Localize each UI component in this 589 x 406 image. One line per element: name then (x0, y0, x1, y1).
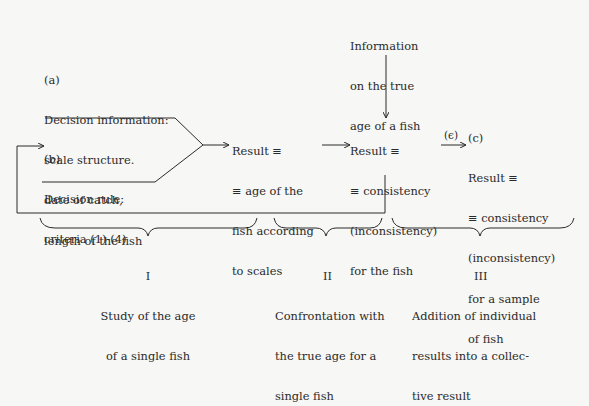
stage-numeral: II (275, 270, 395, 283)
stage-line: the true age for a (275, 350, 395, 363)
epsilon-label: (ϵ) (444, 129, 458, 142)
stage-line: of a single fish (88, 350, 208, 363)
stage-line: tive result (412, 390, 562, 403)
stage-I: I Study of the age of a single fish (88, 243, 208, 377)
stage-II: II Confrontation with the true age for a… (275, 243, 395, 406)
stage-III: III Addition of individual results into … (412, 243, 562, 406)
block-c-line: Result ≡ (468, 172, 555, 185)
stage-line: Confrontation with (275, 310, 395, 323)
result-consistency-line: ≡ consistency (350, 185, 437, 198)
block-b-line: Decision rule: (44, 193, 126, 206)
stage-line: results into a collec- (412, 350, 562, 363)
block-b: (b) Decision rule: criteria (1)-(4) (44, 126, 126, 260)
true-age-line: on the true (350, 80, 420, 93)
block-c-line: ≡ consistency (468, 212, 555, 225)
true-age-line: Information (350, 40, 420, 53)
block-c-label: (c) (468, 132, 555, 145)
stage-line: single fish (275, 390, 395, 403)
result-consistency-line: Result ≡ (350, 145, 437, 158)
stage-numeral: III (412, 270, 562, 283)
block-a-label: (a) (44, 74, 169, 87)
stage-numeral: I (88, 270, 208, 283)
stage-line: Study of the age (88, 310, 208, 323)
result-consistency-line: (inconsistency) (350, 225, 437, 238)
stage-line: Addition of individual (412, 310, 562, 323)
block-b-label: (b) (44, 153, 126, 166)
result-age-line: ≡ age of the (232, 185, 314, 198)
result-age-line: fish according (232, 225, 314, 238)
result-age-line: Result ≡ (232, 145, 314, 158)
